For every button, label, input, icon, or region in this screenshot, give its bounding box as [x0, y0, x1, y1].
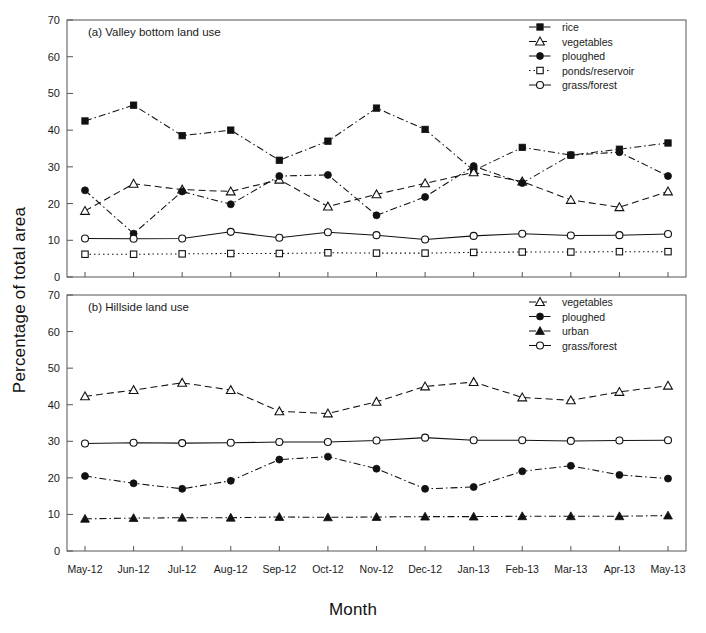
data-point	[373, 212, 380, 219]
marker-open-square	[373, 250, 379, 256]
marker-filled-triangle	[324, 513, 333, 521]
marker-open-square	[228, 250, 234, 256]
x-tick-label: Nov-12	[360, 563, 394, 575]
marker-open-triangle	[129, 386, 138, 394]
data-point	[566, 196, 575, 204]
data-point	[537, 24, 543, 30]
data-point	[275, 407, 284, 415]
legend-label: ploughed	[562, 311, 605, 323]
y-tick-label: 60	[48, 51, 60, 63]
data-point	[422, 236, 429, 243]
data-point	[567, 462, 574, 469]
marker-open-square	[179, 251, 185, 257]
data-point	[616, 149, 623, 156]
data-point	[470, 163, 477, 170]
data-point	[422, 193, 429, 200]
x-tick-label: Feb-13	[506, 563, 539, 575]
data-point	[373, 250, 379, 256]
y-tick-label: 30	[48, 435, 60, 447]
y-tick-label: 10	[48, 234, 60, 246]
marker-open-circle	[470, 437, 477, 444]
data-point	[616, 471, 623, 478]
marker-filled-circle	[470, 484, 477, 491]
data-point	[129, 514, 138, 522]
data-point	[82, 473, 89, 480]
marker-open-circle	[373, 232, 380, 239]
marker-open-square	[519, 249, 525, 255]
data-point	[179, 132, 185, 138]
data-point	[179, 235, 186, 242]
data-point	[519, 468, 526, 475]
data-point	[537, 342, 544, 349]
data-point	[179, 440, 186, 447]
marker-open-circle	[82, 235, 89, 242]
marker-open-circle	[537, 342, 544, 349]
data-point	[537, 53, 544, 60]
legend-label: grass/forest	[562, 79, 617, 91]
data-point	[470, 232, 477, 239]
marker-open-square	[276, 250, 282, 256]
data-point	[421, 179, 430, 187]
marker-open-circle	[373, 437, 380, 444]
marker-filled-triangle	[664, 511, 673, 519]
marker-filled-circle	[324, 171, 331, 178]
data-point	[325, 138, 331, 144]
series-vegetables	[81, 378, 673, 417]
marker-filled-square	[665, 140, 671, 146]
marker-open-circle	[82, 440, 89, 447]
data-point	[422, 434, 429, 441]
legend-item[interactable]: grass/forest	[529, 79, 617, 91]
marker-open-circle	[665, 437, 672, 444]
marker-open-circle	[276, 439, 283, 446]
data-point	[179, 485, 186, 492]
legend: vegetablesploughedurbangrass/forest	[529, 296, 617, 352]
marker-open-square	[325, 250, 331, 256]
x-tick-label: May-12	[67, 563, 102, 575]
data-point	[179, 251, 185, 257]
data-point	[130, 102, 136, 108]
marker-filled-circle	[276, 173, 283, 180]
marker-open-circle	[324, 229, 331, 236]
legend-item[interactable]: vegetables	[529, 36, 613, 48]
data-point	[519, 437, 526, 444]
legend-item[interactable]: ponds/reservoir	[529, 65, 635, 77]
data-point	[470, 484, 477, 491]
marker-filled-square	[130, 102, 136, 108]
marker-open-circle	[422, 434, 429, 441]
series-line	[85, 105, 668, 170]
legend-item[interactable]: rice	[529, 21, 579, 33]
data-point	[470, 249, 476, 255]
marker-filled-circle	[179, 485, 186, 492]
data-point	[82, 118, 88, 124]
legend-item[interactable]: ploughed	[529, 50, 605, 62]
series-grass-forest	[82, 434, 672, 447]
data-point	[422, 126, 428, 132]
marker-filled-circle	[227, 201, 234, 208]
figure-container: Percentage of total area Month 010203040…	[0, 0, 706, 633]
data-point	[616, 437, 623, 444]
marker-open-triangle	[566, 196, 575, 204]
marker-filled-circle	[519, 468, 526, 475]
data-point	[324, 453, 331, 460]
legend-item[interactable]: urban	[529, 325, 589, 337]
data-point	[227, 477, 234, 484]
series-ploughed	[82, 453, 672, 492]
data-point	[276, 157, 282, 163]
data-point	[665, 248, 671, 254]
x-tick-label: Dec-12	[408, 563, 442, 575]
data-point	[537, 67, 543, 73]
panel-title: (b) Hillside land use	[88, 301, 189, 313]
marker-open-circle	[422, 236, 429, 243]
series-line	[85, 457, 668, 489]
legend-item[interactable]: vegetables	[529, 296, 613, 308]
marker-filled-circle	[276, 456, 283, 463]
y-tick-label: 0	[54, 271, 60, 283]
marker-open-square	[82, 251, 88, 257]
marker-open-triangle	[421, 179, 430, 187]
data-point	[129, 386, 138, 394]
legend-item[interactable]: grass/forest	[529, 340, 617, 352]
marker-filled-circle	[82, 473, 89, 480]
data-point	[665, 140, 671, 146]
x-tick-label: Jul-12	[168, 563, 197, 575]
legend-item[interactable]: ploughed	[529, 311, 605, 323]
